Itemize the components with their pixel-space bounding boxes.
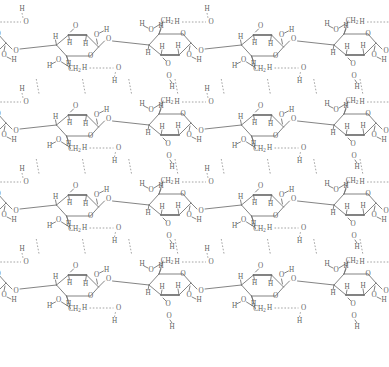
hydroxyl-oxygen-o2: O	[186, 131, 191, 139]
o2-h-bond	[285, 191, 289, 193]
hydroxyl-oxygen-o2: O	[94, 31, 99, 39]
glycosidic-oxygen: O	[291, 195, 296, 203]
hydroxyl-hydrogen-h2: H	[381, 296, 386, 304]
c-h-bond	[56, 280, 57, 285]
hydroxyl-hydrogen-h2: H	[196, 136, 201, 144]
hydroxyl-hydrogen: H	[112, 317, 117, 325]
inter-chain-hydrogen-bond	[129, 239, 132, 255]
glycosidic-oxygen: O	[198, 207, 203, 215]
o2-h-bond	[192, 57, 196, 59]
hydroxyl-hydrogen-h2: H	[381, 216, 386, 224]
hydroxyl-hydrogen-h6: H	[232, 142, 237, 150]
ring-oxygen-o5: O	[365, 110, 370, 118]
ring-bond	[334, 194, 344, 205]
hbond-acceptor-oxygen: O	[208, 98, 213, 106]
inter-chain-hydrogen-bond	[268, 159, 271, 175]
inter-chain-hydrogen-bond	[83, 79, 86, 95]
hydroxyl-hbond-stub	[207, 173, 208, 178]
ring-bond	[57, 285, 67, 296]
ring-bond	[149, 34, 159, 45]
terminal-hydroxyl-oxygen: O	[351, 232, 356, 240]
ring-bond	[149, 194, 159, 205]
glycosidic-bond	[6, 283, 12, 289]
o2-h-bond	[377, 217, 381, 219]
o2-h-bond	[377, 57, 381, 59]
ring-bond	[242, 205, 252, 216]
hbond-donor-hydrogen: H	[174, 18, 179, 26]
o2-h-bond	[192, 297, 196, 299]
hbond-donor-hydrogen: H	[267, 224, 272, 232]
glycosidic-bond	[205, 205, 242, 209]
cellulose-structure-figure: OCH2OHHHHHOOHOOCH2OHHHHHOOHOOCH2OHHHHHOO…	[0, 0, 389, 367]
inter-chain-hydrogen-bond	[314, 79, 317, 95]
ring-hydrogen: H	[360, 122, 365, 130]
o2-h-bond	[377, 297, 381, 299]
hydroxyl-oxygen-o3: O	[258, 102, 263, 110]
c-o2-bond	[97, 279, 98, 284]
hbond-donor-hydrogen: H	[174, 258, 179, 266]
ring-oxygen-o5: O	[180, 270, 185, 278]
ring-bond	[242, 285, 252, 296]
hydroxyl-oxygen-o2: O	[1, 131, 6, 139]
hbond-donor-hydrogen: H	[82, 224, 87, 232]
hydroxyl-hydrogen-h2: H	[289, 266, 294, 274]
glycosidic-bond	[298, 121, 335, 125]
hydroxyl-oxygen-o3: O	[350, 140, 355, 148]
hbond-donor-hydrogen: H	[267, 144, 272, 152]
o2-h-bond	[7, 137, 11, 139]
hydroxyl-oxygen-o2: O	[371, 51, 376, 59]
hydroxyl-oxygen-o3: O	[258, 182, 263, 190]
hydroxyl-hydrogen-h6: H	[232, 62, 237, 70]
ring-hydrogen: H	[344, 203, 349, 211]
hydroxyl-oxygen-o3: O	[165, 220, 170, 228]
glycosidic-bond	[6, 43, 12, 49]
glycosidic-bond	[191, 43, 197, 49]
hydroxyl-hydrogen-h2: H	[289, 186, 294, 194]
hydroxyl-hydrogen-h2: H	[196, 296, 201, 304]
hydroxyl-hydrogen-h2: H	[11, 216, 16, 224]
ring-hydrogen: H	[159, 43, 164, 51]
hydroxyl-oxygen-o6: O	[56, 56, 61, 64]
ring-hydrogen: H	[53, 273, 58, 281]
c-h-bond	[56, 40, 57, 45]
c-o2-bond	[97, 199, 98, 204]
ring-bond	[149, 114, 159, 125]
ring-hydrogen: H	[238, 193, 243, 201]
o2-h-bond	[100, 31, 104, 33]
glycosidic-bond	[284, 121, 290, 127]
hydroxyl-hydrogen-h2: H	[104, 266, 109, 274]
ring-hydrogen: H	[344, 43, 349, 51]
ring-oxygen-o5: O	[180, 110, 185, 118]
glycosidic-bond	[99, 41, 105, 47]
hydroxyl-hydrogen-h2: H	[381, 56, 386, 64]
glycosidic-bond	[6, 203, 12, 209]
hydroxyl-hydrogen-h2: H	[11, 296, 16, 304]
inter-chain-hydrogen-bond	[36, 159, 39, 175]
inter-chain-hydrogen-bond	[360, 79, 363, 95]
ring-hydrogen: H	[360, 282, 365, 290]
hydroxyl-hydrogen-h2: H	[104, 186, 109, 194]
glycosidic-oxygen: O	[198, 47, 203, 55]
ring-oxygen-o5: O	[365, 30, 370, 38]
glycosidic-bond	[6, 123, 12, 129]
c-h-bond	[363, 209, 364, 215]
hydroxyl-oxygen-o3: O	[73, 182, 78, 190]
ring-hydrogen: H	[158, 182, 163, 190]
hydroxyl-oxygen-o2: O	[186, 211, 191, 219]
c-h-bond	[56, 120, 57, 125]
hydroxyl-hydrogen-h6: H	[324, 180, 329, 188]
hydroxyl-hbond-stub	[22, 253, 23, 258]
hbond-acceptor-oxygen: O	[116, 224, 121, 232]
c-h-bond	[56, 200, 57, 205]
c-h-bond	[178, 209, 179, 215]
hydroxyl-hydrogen: H	[297, 317, 302, 325]
glycosidic-bond	[20, 285, 57, 289]
glycosidic-oxygen: O	[106, 35, 111, 43]
hydroxyl-oxygen-o3: O	[73, 22, 78, 30]
ring-oxygen-o5: O	[365, 190, 370, 198]
ring-hydrogen: H	[159, 203, 164, 211]
hydroxyl-hydrogen-h6: H	[47, 302, 52, 310]
hydroxyl-hbond-stub	[22, 13, 23, 18]
inter-chain-hydrogen-bond	[314, 239, 317, 255]
hydroxyl-oxygen-o6: O	[333, 186, 338, 194]
